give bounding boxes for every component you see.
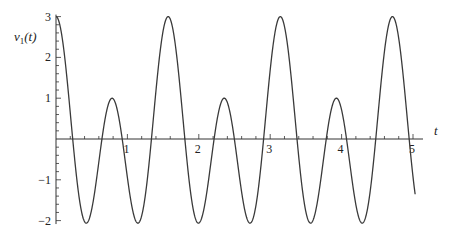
x-tick-label: 3 — [266, 142, 272, 156]
y-tick-label: −2 — [38, 214, 51, 228]
y-tick-label: 1 — [45, 91, 51, 105]
x-axis-ticks: 12345 — [123, 134, 415, 156]
v1-curve — [56, 17, 415, 224]
y-axis-label: v1(t) — [14, 29, 37, 46]
y-tick-label: 3 — [45, 10, 51, 24]
y-tick-label: 2 — [45, 50, 51, 64]
x-tick-label: 2 — [195, 142, 201, 156]
line-chart: 12345 −2−1123 t v1(t) — [0, 0, 452, 240]
x-tick-label: 4 — [338, 142, 344, 156]
y-axis-ticks: −2−1123 — [38, 10, 61, 228]
y-tick-label: −1 — [38, 173, 51, 187]
x-axis-label: t — [434, 123, 438, 138]
y-axis-label-argument: (t) — [24, 29, 36, 44]
